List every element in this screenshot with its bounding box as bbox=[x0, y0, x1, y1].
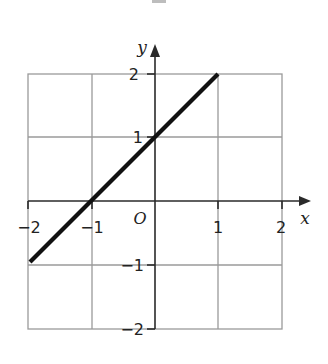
graph-svg: y x O −2 −1 1 2 2 1 −1 −2 bbox=[0, 0, 328, 364]
y-axis-arrow-icon bbox=[150, 44, 160, 57]
coordinate-plane-figure: y x O −2 −1 1 2 2 1 −1 −2 bbox=[0, 0, 328, 364]
y-tick-label-neg1: −1 bbox=[120, 256, 144, 275]
x-axis-label: x bbox=[300, 208, 310, 228]
y-tick-label-2: 2 bbox=[129, 65, 139, 84]
origin-label: O bbox=[133, 209, 146, 228]
y-tick-label-1: 1 bbox=[133, 128, 143, 147]
y-tick-label-neg2: −2 bbox=[120, 320, 144, 339]
x-tick-label-neg1: −1 bbox=[80, 218, 104, 237]
x-tick-label-2: 2 bbox=[276, 218, 286, 237]
axes bbox=[28, 56, 304, 329]
y-axis-label: y bbox=[136, 37, 147, 57]
plotted-line bbox=[30, 74, 218, 262]
x-axis-arrow-icon bbox=[299, 196, 311, 206]
cropped-header-fragment bbox=[152, 0, 166, 3]
x-tick-label-1: 1 bbox=[213, 218, 223, 237]
x-tick-label-neg2: −2 bbox=[17, 218, 41, 237]
